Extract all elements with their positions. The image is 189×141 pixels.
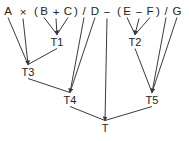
edge-tok-plus-to-T1 [56, 19, 57, 35]
token-A: A [4, 6, 12, 17]
edge-T4-to-T [70, 107, 105, 121]
token-lparen: ( [34, 6, 38, 17]
token-F: F [146, 6, 153, 17]
token-plus: + [53, 7, 60, 18]
edge-tok-div1-to-T4 [70, 18, 84, 93]
graph-node-t4: T4 [64, 95, 77, 106]
token-minus: − [136, 7, 143, 18]
edge-tok-E-to-T2 [127, 18, 135, 35]
edge-tok-div2-to-T5 [152, 18, 166, 93]
edge-T1-to-T3 [28, 49, 57, 65]
edge-tok-D-to-T4 [70, 18, 95, 93]
graph-node-t5: T5 [146, 95, 159, 106]
token-divide: / [82, 6, 85, 17]
token-D: D [91, 6, 99, 17]
edge-tok-B-to-T1 [44, 18, 57, 35]
token-B: B [40, 6, 48, 17]
graph-node-t1: T1 [51, 37, 64, 48]
edge-T2-to-T5 [135, 49, 152, 93]
edge-tok-G-to-T5 [152, 18, 177, 93]
graph-node-t3: T3 [22, 67, 35, 78]
token-divide: / [164, 6, 167, 17]
token-C: C [64, 6, 72, 17]
token-rparen: ) [74, 6, 78, 17]
graph-node-t: T [102, 123, 109, 134]
token-G: G [173, 6, 182, 17]
token-lparen: ( [117, 6, 121, 17]
edge-T3-to-T4 [28, 79, 70, 93]
edge-tok-minus1-to-T [105, 19, 107, 121]
token-rparen: ) [156, 6, 160, 17]
token-minus: − [104, 7, 111, 18]
edge-T5-to-T [105, 107, 152, 121]
expression-dag-diagram: A×(B+C)/D−(E−F)/G T1T2T3T4T5T [0, 0, 189, 141]
token-times: × [20, 7, 27, 18]
token-E: E [123, 6, 131, 17]
graph-node-t2: T2 [129, 37, 142, 48]
edge-tok-C-to-T1 [57, 18, 68, 35]
